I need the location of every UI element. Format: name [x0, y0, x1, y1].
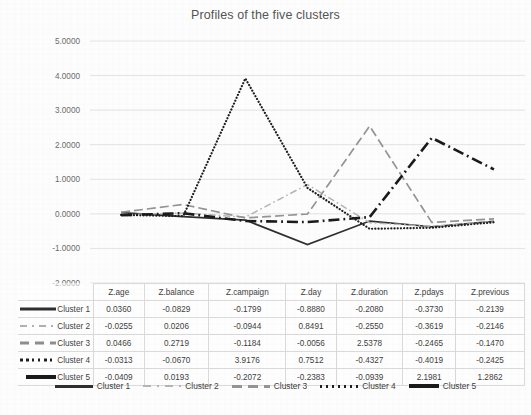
- table-row-label: Cluster 4: [18, 352, 94, 369]
- table-cell: -0.3619: [403, 318, 456, 335]
- legend-line-swatch-1-icon: [55, 385, 93, 388]
- series-line-4: [121, 78, 494, 228]
- table-cell: -0.3730: [403, 301, 456, 318]
- table-cell: -0.2080: [336, 301, 402, 318]
- table-cell: -0.4327: [336, 352, 402, 369]
- table-cell: 0.0466: [94, 335, 145, 352]
- table-cell: -0.0670: [144, 352, 209, 369]
- series-swatch-5-icon: [26, 375, 56, 379]
- row-label-text: Cluster 1: [57, 305, 90, 314]
- legend-item-5[interactable]: Cluster 5: [409, 381, 477, 391]
- y-axis-tick-label: 0.0000: [55, 210, 80, 219]
- table-cell: -0.2146: [456, 318, 525, 335]
- table-cell: -0.2139: [456, 301, 525, 318]
- legend-label: Cluster 4: [362, 381, 396, 391]
- table-column-header: Z.pdays: [403, 284, 456, 301]
- table-cell: 0.7512: [286, 352, 337, 369]
- legend-line-swatch-2-icon: [143, 385, 181, 387]
- table-cell: -0.1799: [209, 301, 286, 318]
- table-row-label: Cluster 2: [18, 318, 94, 335]
- row-label-text: Cluster 3: [57, 339, 90, 348]
- chart-series-layer: [121, 78, 494, 244]
- table-column-header: Z.age: [94, 284, 145, 301]
- chart-gridlines: [90, 41, 525, 283]
- chart-legend: Cluster 1Cluster 2Cluster 3Cluster 4Clus…: [0, 381, 531, 391]
- chart-plot-area: 5.00004.00003.00002.00001.00000.0000-1.0…: [0, 0, 531, 292]
- series-line-1: [121, 213, 494, 245]
- table-header-row: Z.ageZ.balanceZ.campaignZ.dayZ.durationZ…: [18, 284, 525, 301]
- y-axis-tick-label: -1.0000: [52, 244, 80, 253]
- legend-line-swatch-4-icon: [320, 385, 358, 388]
- series-swatch-1-icon: [20, 308, 56, 311]
- table-row-label: Cluster 3: [18, 335, 94, 352]
- legend-line-swatch-5-icon: [409, 384, 439, 388]
- table-row: Cluster 30.04660.2719-0.1184-0.00562.537…: [18, 335, 525, 352]
- legend-item-3[interactable]: Cluster 3: [232, 381, 308, 391]
- table-cell: -0.8880: [286, 301, 337, 318]
- legend-label: Cluster 2: [185, 381, 219, 391]
- table-row: Cluster 4-0.0313-0.06703.91760.7512-0.43…: [18, 352, 525, 369]
- series-swatch-3-icon: [20, 342, 56, 345]
- table-cell: -0.2550: [336, 318, 402, 335]
- chart-svg: 5.00004.00003.00002.00001.00000.0000-1.0…: [0, 0, 531, 292]
- table-cell: 0.2719: [144, 335, 209, 352]
- series-swatch-2-icon: [20, 325, 56, 327]
- y-axis-tick-label: 1.0000: [55, 175, 80, 184]
- table-column-header: Z.campaign: [209, 284, 286, 301]
- legend-label: Cluster 3: [274, 381, 308, 391]
- table-cell: 0.0360: [94, 301, 145, 318]
- y-axis-tick-label: 2.0000: [55, 141, 80, 150]
- legend-item-1[interactable]: Cluster 1: [55, 381, 131, 391]
- series-swatch-4-icon: [20, 359, 56, 362]
- legend-line-swatch-3-icon: [232, 385, 270, 388]
- table-cell: 3.9176: [209, 352, 286, 369]
- table-cell: 0.0206: [144, 318, 209, 335]
- table-cell: -0.0944: [209, 318, 286, 335]
- table-cell: 2.5378: [336, 335, 402, 352]
- y-axis-tick-label: 4.0000: [55, 72, 80, 81]
- chart-y-axis-ticks: 5.00004.00003.00002.00001.00000.0000-1.0…: [52, 37, 80, 288]
- y-axis-tick-label: 3.0000: [55, 106, 80, 115]
- table-cell: 0.8491: [286, 318, 337, 335]
- row-label-text: Cluster 4: [57, 356, 90, 365]
- table-column-header: Z.day: [286, 284, 337, 301]
- table-cell: -0.0829: [144, 301, 209, 318]
- table-cell: -0.4019: [403, 352, 456, 369]
- row-label-text: Cluster 2: [57, 322, 90, 331]
- row-label-text: Cluster 5: [57, 373, 90, 382]
- table-cell: -0.1470: [456, 335, 525, 352]
- table-column-header: Z.balance: [144, 284, 209, 301]
- table-cell: -0.0255: [94, 318, 145, 335]
- table-body: Cluster 10.0360-0.0829-0.1799-0.8880-0.2…: [18, 301, 525, 386]
- y-axis-tick-label: 5.0000: [55, 37, 80, 46]
- table-column-header: Z.previous: [456, 284, 525, 301]
- table-column-header: Z.duration: [336, 284, 402, 301]
- table-cell: -0.1184: [209, 335, 286, 352]
- table-cell: -0.2465: [403, 335, 456, 352]
- legend-item-2[interactable]: Cluster 2: [143, 381, 219, 391]
- table-cell: -0.0313: [94, 352, 145, 369]
- table-row: Cluster 10.0360-0.0829-0.1799-0.8880-0.2…: [18, 301, 525, 318]
- table-corner-cell: [18, 284, 94, 301]
- table-cell: -0.0056: [286, 335, 337, 352]
- table-row: Cluster 2-0.02550.0206-0.09440.8491-0.25…: [18, 318, 525, 335]
- legend-label: Cluster 1: [97, 381, 131, 391]
- table-row-label: Cluster 1: [18, 301, 94, 318]
- cluster-data-table: Z.ageZ.balanceZ.campaignZ.dayZ.durationZ…: [18, 283, 525, 386]
- table-cell: -0.2425: [456, 352, 525, 369]
- legend-item-4[interactable]: Cluster 4: [320, 381, 396, 391]
- legend-label: Cluster 5: [443, 381, 477, 391]
- series-line-5: [121, 138, 494, 222]
